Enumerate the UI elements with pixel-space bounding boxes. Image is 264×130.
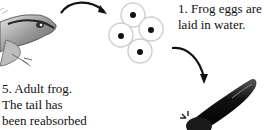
arrow-eggs-to-tadpole-icon bbox=[172, 48, 208, 84]
stage-5-label: 5. Adult frog. The tail has been reabsor… bbox=[2, 81, 87, 129]
adult-frog-icon bbox=[0, 8, 56, 66]
arrow-frog-to-eggs-icon bbox=[61, 3, 107, 14]
frog-life-cycle-diagram: 1. Frog eggs are laid in water. 5. Adult… bbox=[0, 0, 264, 130]
stage-1-label: 1. Frog eggs are laid in water. bbox=[178, 1, 262, 33]
frog-eggs-icon bbox=[109, 3, 163, 63]
tadpole-icon bbox=[180, 79, 256, 130]
